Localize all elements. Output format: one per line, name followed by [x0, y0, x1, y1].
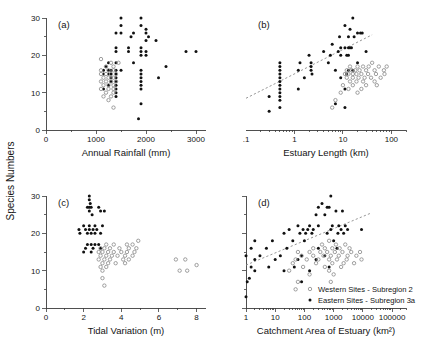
data-point [344, 224, 347, 227]
data-point [132, 61, 135, 64]
data-point [140, 87, 143, 90]
data-point [331, 43, 334, 46]
data-point [296, 224, 299, 227]
data-point [267, 265, 270, 268]
data-point [120, 17, 123, 20]
data-point [310, 65, 313, 68]
data-point [140, 73, 143, 76]
four-panel-scatter-figure: 01020300100020003000Annual Rainfall (mm)… [0, 0, 447, 362]
data-point [90, 232, 93, 235]
data-point [334, 209, 337, 212]
data-point [278, 80, 281, 83]
panel-d-label: (d) [258, 197, 270, 208]
data-point [140, 54, 143, 57]
data-point [253, 269, 256, 272]
data-point [88, 209, 91, 212]
panel-d-x-tick-label: 1000 [325, 313, 343, 322]
data-point [90, 243, 93, 246]
data-point [93, 232, 96, 235]
data-point [115, 46, 118, 49]
data-point [343, 46, 346, 49]
data-point [297, 69, 300, 72]
data-point [140, 17, 143, 20]
data-point [253, 239, 256, 242]
data-point [361, 31, 364, 34]
data-point [120, 24, 123, 27]
data-point [343, 87, 346, 90]
panel-a-y-tick-label: 0 [36, 126, 41, 135]
data-point [331, 224, 334, 227]
data-point [145, 28, 148, 31]
shared-y-axis-label: Species Numbers [5, 142, 16, 221]
panel-a-y-tick-label: 10 [31, 89, 40, 98]
panel-b-x-tick-label-min: .1 [243, 135, 250, 144]
data-point [99, 232, 102, 235]
data-point [347, 54, 350, 57]
panel-a-x-tick-label: 2000 [137, 135, 155, 144]
data-point [140, 69, 143, 72]
panel-a-x-axis-title: Annual Rainfall (mm) [82, 147, 171, 158]
data-point [82, 251, 85, 254]
data-point [246, 280, 249, 283]
data-point [347, 35, 350, 38]
data-point [268, 95, 271, 98]
data-point [140, 102, 143, 105]
data-point [329, 54, 332, 57]
panel-b-x-axis-title: Estuary Length (km) [283, 147, 369, 158]
data-point [300, 280, 303, 283]
data-point [310, 61, 313, 64]
data-point [145, 50, 148, 53]
data-point [195, 50, 198, 53]
data-point [265, 247, 268, 250]
data-point [115, 95, 118, 98]
legend-marker-eastern [309, 299, 312, 302]
data-point [291, 239, 294, 242]
data-point [303, 239, 306, 242]
data-point [78, 232, 81, 235]
data-point [350, 46, 353, 49]
data-point [356, 31, 359, 34]
data-point [321, 202, 324, 205]
data-point [278, 73, 281, 76]
data-point [97, 243, 100, 246]
panel-a-label: (a) [58, 19, 70, 30]
data-point [89, 202, 92, 205]
data-point [248, 277, 251, 280]
data-point [93, 224, 96, 227]
data-point [165, 65, 168, 68]
data-point [334, 102, 337, 105]
data-point [278, 106, 281, 109]
data-point [328, 206, 331, 209]
data-point [297, 87, 300, 90]
data-point [103, 209, 106, 212]
data-point [332, 239, 335, 242]
panel-d-x-tick-label: 10 [271, 313, 280, 322]
panel-c-y-tick-label: 0 [36, 304, 41, 313]
data-point [322, 50, 325, 53]
data-point [317, 224, 320, 227]
data-point [353, 35, 356, 38]
data-point [306, 228, 309, 231]
data-point [317, 206, 320, 209]
panel-c-y-tick-label: 10 [31, 267, 40, 276]
data-point [278, 61, 281, 64]
data-point [302, 228, 305, 231]
data-point [278, 91, 281, 94]
data-point [278, 87, 281, 90]
data-point [245, 254, 248, 257]
data-point [278, 69, 281, 72]
legend-label-0: Western Sites - Subregion 2 [318, 285, 413, 294]
panel-b-x-tick-label: 10 [338, 135, 347, 144]
data-point [312, 228, 315, 231]
data-point [120, 31, 123, 34]
data-point [140, 80, 143, 83]
panel-d-x-tick-label: 10000 [352, 313, 375, 322]
data-point [351, 17, 354, 20]
data-point [127, 50, 130, 53]
figure-container: 01020300100020003000Annual Rainfall (mm)… [0, 0, 447, 362]
data-point [271, 239, 274, 242]
data-point [274, 258, 277, 261]
data-point [155, 39, 158, 42]
panel-d-x-tick-label: 100000 [379, 313, 406, 322]
data-point [346, 228, 349, 231]
